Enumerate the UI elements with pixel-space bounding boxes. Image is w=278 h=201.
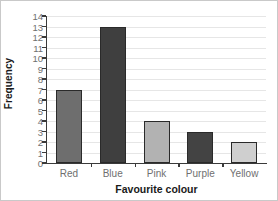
bar-purple xyxy=(187,132,213,164)
y-tick-mark xyxy=(42,120,46,122)
y-axis-title-text: Frequency xyxy=(4,58,15,109)
bar-red xyxy=(56,90,82,164)
plot-area xyxy=(47,16,266,163)
y-tick-mark xyxy=(42,57,46,59)
x-tick-label-red: Red xyxy=(47,168,91,179)
x-tick-mark xyxy=(222,163,224,167)
y-tick-label: 4 xyxy=(25,117,43,126)
y-tick-mark xyxy=(42,131,46,133)
y-axis-title: Frequency xyxy=(1,1,17,166)
y-tick-mark xyxy=(42,47,46,49)
y-tick-mark xyxy=(42,89,46,91)
y-tick-label: 14 xyxy=(25,12,43,21)
y-tick-label: 5 xyxy=(25,106,43,115)
y-tick-label: 13 xyxy=(25,22,43,31)
y-tick-label: 7 xyxy=(25,85,43,94)
y-tick-mark xyxy=(42,26,46,28)
bar-blue xyxy=(100,27,126,164)
y-axis-tick-labels: 14131211109876543210 xyxy=(25,16,43,163)
y-tick-label: 10 xyxy=(25,54,43,63)
gridline xyxy=(47,79,266,80)
x-tick-label-pink: Pink xyxy=(135,168,179,179)
gridline xyxy=(47,37,266,38)
y-tick-label: 3 xyxy=(25,127,43,136)
y-tick-mark xyxy=(42,110,46,112)
y-tick-mark xyxy=(42,36,46,38)
x-tick-mark xyxy=(135,163,137,167)
y-tick-label: 12 xyxy=(25,33,43,42)
y-tick-label: 2 xyxy=(25,138,43,147)
gridline xyxy=(47,58,266,59)
y-tick-mark xyxy=(42,141,46,143)
y-tick-mark xyxy=(42,162,46,164)
y-tick-label: 0 xyxy=(25,159,43,168)
x-tick-mark xyxy=(91,163,93,167)
y-tick-label: 9 xyxy=(25,64,43,73)
y-tick-mark xyxy=(42,68,46,70)
y-tick-mark xyxy=(42,15,46,17)
bar-pink xyxy=(144,121,170,163)
x-tick-label-blue: Blue xyxy=(91,168,135,179)
gridline xyxy=(47,27,266,28)
gridline xyxy=(47,16,266,17)
y-tick-mark xyxy=(42,99,46,101)
y-tick-label: 11 xyxy=(25,43,43,52)
bar-chart-figure: Frequency 14131211109876543210 RedBluePi… xyxy=(0,0,278,201)
bar-yellow xyxy=(231,142,257,163)
gridline xyxy=(47,69,266,70)
y-tick-label: 8 xyxy=(25,75,43,84)
gridline xyxy=(47,48,266,49)
y-tick-mark xyxy=(42,152,46,154)
y-tick-label: 6 xyxy=(25,96,43,105)
x-tick-label-purple: Purple xyxy=(178,168,222,179)
x-tick-label-yellow: Yellow xyxy=(222,168,266,179)
y-tick-label: 1 xyxy=(25,148,43,157)
x-tick-mark xyxy=(178,163,180,167)
x-axis-title: Favourite colour xyxy=(47,183,266,195)
y-tick-mark xyxy=(42,78,46,80)
